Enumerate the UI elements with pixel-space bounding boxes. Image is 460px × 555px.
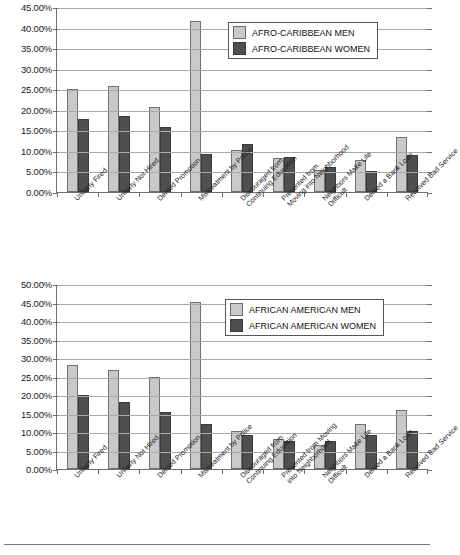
gridline [57, 415, 428, 416]
y-tick-mark-right [427, 8, 432, 9]
gridline [57, 285, 428, 286]
x-axis-labels-bottom: Unfairly FiredUnfairly Not HiredDenied P… [56, 470, 428, 545]
chart-afro-caribbean: 0.00%5.00%10.00%15.00%20.00%25.00%30.00%… [0, 8, 434, 270]
y-axis-labels-bottom: 0.00%5.00%10.00%15.00%20.00%25.00%30.00%… [0, 285, 52, 470]
y-tick-mark [53, 285, 58, 286]
y-tick-label: 15.00% [0, 127, 52, 137]
y-tick-mark-right [427, 433, 432, 434]
legend-swatch-men-icon [233, 26, 246, 39]
legend-bottom: AFRICAN AMERICAN MEN AFRICAN AMERICAN WO… [225, 299, 384, 336]
y-tick-label: 20.00% [0, 391, 52, 401]
y-tick-mark [53, 131, 58, 132]
y-tick-mark-right [427, 378, 432, 379]
legend-label-men: AFRO-CARIBBEAN MEN [252, 28, 355, 38]
y-tick-mark-right [427, 29, 432, 30]
y-tick-label: 50.00% [0, 280, 52, 290]
legend-label-women: AFRICAN AMERICAN WOMEN [249, 321, 376, 331]
bar-men [108, 86, 119, 192]
legend-row-women: AFRO-CARIBBEAN WOMEN [233, 42, 370, 55]
y-tick-mark-right [427, 322, 432, 323]
y-tick-mark-right [427, 152, 432, 153]
y-tick-label: 10.00% [0, 147, 52, 157]
footer-divider [4, 544, 430, 545]
y-tick-mark-right [427, 131, 432, 132]
y-tick-mark [53, 415, 58, 416]
y-tick-mark [53, 433, 58, 434]
bar-men [149, 107, 160, 193]
y-tick-label: 10.00% [0, 428, 52, 438]
y-tick-mark-right [427, 111, 432, 112]
bar-group [98, 8, 139, 192]
y-tick-label: 45.00% [0, 3, 52, 13]
y-tick-mark-right [427, 415, 432, 416]
y-tick-mark-right [427, 396, 432, 397]
y-tick-mark-right [427, 359, 432, 360]
y-tick-mark [53, 322, 58, 323]
y-tick-label: 40.00% [0, 317, 52, 327]
y-tick-mark [53, 452, 58, 453]
y-tick-mark-right [427, 70, 432, 71]
gridline [57, 8, 428, 9]
legend-row-men: AFRICAN AMERICAN MEN [230, 303, 376, 316]
y-tick-mark [53, 49, 58, 50]
y-tick-label: 5.00% [0, 447, 52, 457]
y-tick-mark-right [427, 304, 432, 305]
gridline [57, 396, 428, 397]
y-tick-mark-right [427, 49, 432, 50]
y-tick-mark [53, 8, 58, 9]
gridline [57, 90, 428, 91]
bar-men [149, 377, 160, 470]
y-tick-mark-right [427, 341, 432, 342]
bar-men [108, 370, 119, 469]
bar-men [67, 365, 78, 469]
y-tick-mark [53, 29, 58, 30]
gridline [57, 70, 428, 71]
y-tick-mark [53, 396, 58, 397]
legend-label-men: AFRICAN AMERICAN MEN [249, 305, 361, 315]
y-tick-label: 0.00% [0, 188, 52, 198]
legend-row-women: AFRICAN AMERICAN WOMEN [230, 319, 376, 332]
y-tick-mark [53, 378, 58, 379]
gridline [57, 378, 428, 379]
y-tick-label: 15.00% [0, 410, 52, 420]
y-tick-mark [53, 304, 58, 305]
legend-swatch-women-icon [233, 42, 246, 55]
y-tick-label: 5.00% [0, 168, 52, 178]
gridline [57, 172, 428, 173]
x-axis-labels-top: Unfairly FiredUnfairly Not HiredDenied P… [56, 193, 428, 268]
y-tick-label: 0.00% [0, 465, 52, 475]
y-tick-mark [53, 90, 58, 91]
legend-row-men: AFRO-CARIBBEAN MEN [233, 26, 370, 39]
y-tick-mark [53, 341, 58, 342]
y-tick-mark [53, 359, 58, 360]
y-tick-label: 40.00% [0, 24, 52, 34]
legend-swatch-women-icon [230, 319, 243, 332]
bar-men [67, 89, 78, 192]
gridline [57, 131, 428, 132]
y-tick-label: 25.00% [0, 85, 52, 95]
y-tick-mark [53, 111, 58, 112]
y-tick-mark [53, 70, 58, 71]
y-tick-label: 25.00% [0, 373, 52, 383]
bar-group [57, 8, 98, 192]
y-tick-label: 30.00% [0, 65, 52, 75]
y-tick-mark-right [427, 90, 432, 91]
y-tick-label: 35.00% [0, 336, 52, 346]
gridline [57, 341, 428, 342]
y-tick-mark [53, 172, 58, 173]
y-tick-label: 20.00% [0, 106, 52, 116]
y-tick-label: 30.00% [0, 354, 52, 364]
y-tick-label: 35.00% [0, 44, 52, 54]
legend-label-women: AFRO-CARIBBEAN WOMEN [252, 44, 370, 54]
y-tick-mark-right [427, 285, 432, 286]
y-axis-labels-top: 0.00%5.00%10.00%15.00%20.00%25.00%30.00%… [0, 8, 52, 193]
legend-top: AFRO-CARIBBEAN MEN AFRO-CARIBBEAN WOMEN [228, 22, 378, 59]
y-tick-mark [53, 152, 58, 153]
chart-african-american: 0.00%5.00%10.00%15.00%20.00%25.00%30.00%… [0, 285, 434, 547]
y-tick-label: 45.00% [0, 299, 52, 309]
gridline [57, 111, 428, 112]
gridline [57, 452, 428, 453]
legend-swatch-men-icon [230, 303, 243, 316]
gridline [57, 359, 428, 360]
